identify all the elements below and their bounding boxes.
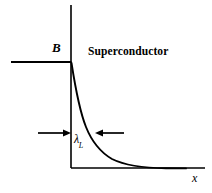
penetration-depth-arrow-left [38,129,71,136]
penetration-depth-label: λL [74,133,84,148]
penetration-depth-arrow-right [95,129,124,136]
field-decay-curve [72,63,187,168]
field-symbol-label: B [52,41,61,54]
superconductor-region-label: Superconductor [88,46,168,58]
x-axis-label: x [192,172,197,184]
physics-diagram-superconductor-field-penetration: B Superconductor λL x [0,0,212,193]
lambda-subscript: L [79,141,83,150]
diagram-canvas [0,0,212,193]
